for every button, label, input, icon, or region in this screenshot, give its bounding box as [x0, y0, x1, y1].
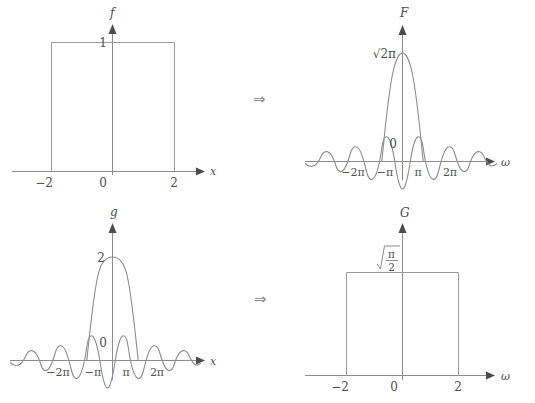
- y-axis-arrowhead-F: [399, 25, 407, 35]
- axis-label-omega-F: ω: [501, 156, 510, 169]
- xtick-label-pi-F: π: [414, 166, 421, 179]
- axis-label-F: F: [399, 6, 409, 20]
- origin-label-F: 0: [389, 137, 397, 151]
- ytick-label-2-g: 2: [97, 251, 105, 265]
- axis-label-g: g: [110, 205, 118, 219]
- xtick-label-2pi-F: 2π: [443, 166, 457, 179]
- x-axis-arrowhead-f: [196, 168, 205, 176]
- ytick-label-sqrt-pi-over-2-G: π 2: [377, 246, 400, 273]
- sinc-curve-F: [305, 137, 497, 189]
- fourier-transform-duality-figure: f x −2 0 2 1 ⇒ F ω √2π: [0, 0, 535, 403]
- panel-f: f x −2 0 2 1: [0, 0, 240, 200]
- xtick-label-zero-f: 0: [99, 176, 107, 190]
- radicand-numerator-G: π: [388, 248, 395, 260]
- svg-text:√2π: √2π: [373, 47, 396, 61]
- panel-F: F ω √2π 0 −2π −π π 2π: [290, 0, 535, 200]
- axis-label-x-f: x: [210, 165, 217, 178]
- xtick-label-neg2-G: −2: [331, 380, 349, 394]
- x-axis-arrowhead-G: [486, 372, 495, 380]
- panel-G: G ω π 2 −2 0 2: [290, 200, 535, 403]
- xtick-label-2-f: 2: [170, 176, 178, 190]
- y-axis-arrowhead-f: [109, 24, 117, 34]
- axis-label-G: G: [400, 206, 410, 220]
- xtick-label-negpi-g: −π: [85, 366, 101, 379]
- xtick-label-2-G: 2: [454, 380, 462, 394]
- axis-label-f: f: [109, 6, 117, 20]
- implies-arrow-bottom: ⇒: [254, 292, 267, 307]
- axis-label-omega-G: ω: [501, 370, 510, 383]
- xtick-label-zero-G: 0: [390, 380, 398, 394]
- ytick-label-1-f: 1: [99, 36, 107, 50]
- origin-label-g: 0: [99, 336, 107, 350]
- xtick-label-neg2-f: −2: [35, 176, 53, 190]
- xtick-label-2pi-g: 2π: [150, 366, 164, 379]
- xtick-label-negpi-F: −π: [377, 166, 393, 179]
- radicand-denominator-G: 2: [388, 261, 395, 273]
- y-axis-arrowhead-g: [109, 223, 117, 233]
- xtick-label-neg2pi-F: −2π: [341, 166, 364, 179]
- ytick-label-sqrt2pi-F: √2π: [373, 47, 396, 61]
- y-axis-arrowhead-G: [399, 223, 407, 233]
- xtick-label-pi-g: π: [122, 366, 129, 379]
- x-axis-arrowhead-F: [486, 158, 495, 166]
- xtick-label-neg2pi-g: −2π: [46, 366, 69, 379]
- axis-label-x-g: x: [210, 355, 217, 368]
- implies-arrow-top: ⇒: [253, 92, 266, 107]
- panel-g: g x 2 0 −2π −π π 2π: [0, 200, 240, 403]
